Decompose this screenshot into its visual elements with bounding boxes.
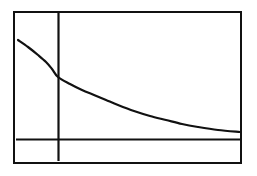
graph-screenshot [0,0,257,176]
decay-curve-path [18,40,240,132]
plot-canvas [0,0,257,176]
